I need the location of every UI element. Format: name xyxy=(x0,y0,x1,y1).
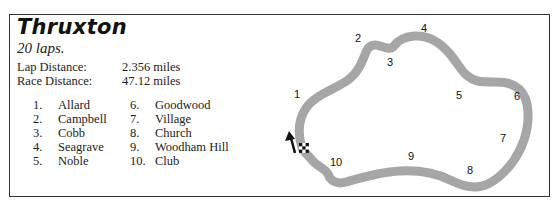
checkered-flag-icon xyxy=(299,143,309,153)
corner-label-3: 3 xyxy=(387,56,393,68)
corner-label-1: 1 xyxy=(294,88,300,100)
corner-label-10: 10 xyxy=(330,156,342,168)
corner-label-2: 2 xyxy=(355,32,361,44)
corner-label-5: 5 xyxy=(456,89,462,101)
track-map: 1 2 3 4 5 6 7 8 9 10 xyxy=(0,0,557,210)
corner-label-7: 7 xyxy=(500,132,506,144)
corner-label-4: 4 xyxy=(421,22,427,34)
corner-label-8: 8 xyxy=(467,164,473,176)
direction-arrow-icon xyxy=(285,131,295,153)
corner-label-6: 6 xyxy=(514,90,520,102)
corner-label-9: 9 xyxy=(408,150,414,162)
